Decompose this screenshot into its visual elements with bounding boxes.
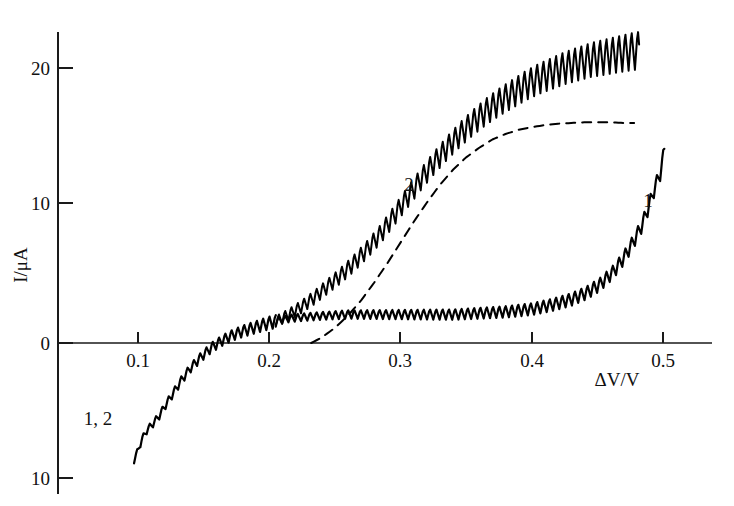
y-axis-title: I/μA	[10, 247, 31, 283]
y-tick-label-10: 10	[31, 193, 50, 214]
x-tick-label-0.1: 0.1	[126, 350, 150, 371]
curve-label-shared: 1, 2	[84, 408, 113, 429]
x-tick-label-0.3: 0.3	[388, 350, 412, 371]
x-tick-label-0.4: 0.4	[520, 350, 544, 371]
y-tick-label-20: 20	[31, 58, 50, 79]
voltammogram-plot: 20 10 0 10 0.1 0.2 0.3 0.4 0.5 ΔV/V I/μA…	[0, 0, 734, 506]
curve-label-2: 2	[404, 174, 414, 195]
x-axis-title: ΔV/V	[595, 369, 640, 390]
curve-label-1: 1	[643, 190, 653, 211]
x-tick-label-0.2: 0.2	[257, 350, 281, 371]
y-tick-label-minus10: 10	[31, 468, 50, 489]
y-tick-label-0: 0	[41, 333, 51, 354]
chart-figure: 20 10 0 10 0.1 0.2 0.3 0.4 0.5 ΔV/V I/μA…	[0, 0, 734, 506]
x-tick-label-0.5: 0.5	[651, 350, 675, 371]
